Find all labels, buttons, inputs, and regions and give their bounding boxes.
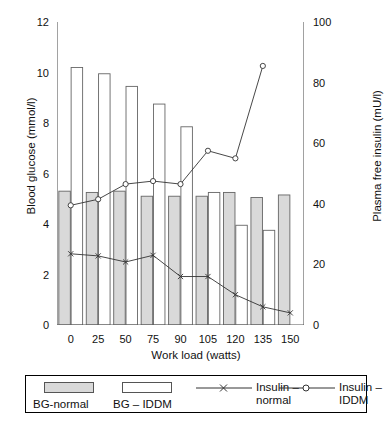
plot-svg (57, 22, 304, 325)
bar-bg-iddm (208, 192, 220, 325)
x-axis-tick-8: 150 (275, 334, 305, 345)
bar-bg-iddm (181, 127, 193, 325)
x-axis-tick-2: 50 (111, 334, 141, 345)
x-axis-tick-7: 135 (248, 334, 278, 345)
y-axis-left-tick-5: 10 (23, 68, 49, 79)
y-axis-right-tick-5: 100 (313, 17, 343, 28)
y-axis-left-tick-2: 4 (23, 219, 49, 230)
y-axis-left-tick-3: 6 (23, 169, 49, 180)
shaded-box-icon (44, 382, 94, 393)
bar-bg-normal (86, 192, 98, 325)
bar-bg-iddm (153, 104, 165, 325)
legend-label-bg-iddm: BG – IDDM (113, 398, 172, 411)
x-axis-tick-3: 75 (138, 334, 168, 345)
legend-label-insulin-iddm-line1: Insulin – (339, 381, 382, 394)
bar-bg-iddm (126, 86, 138, 325)
x-axis-tick-1: 25 (83, 334, 113, 345)
y-axis-right-tick-3: 60 (313, 138, 343, 149)
bar-bg-normal (223, 192, 235, 325)
x-axis-tick-6: 120 (220, 334, 250, 345)
bar-bg-normal (278, 195, 290, 325)
white-box-icon (122, 382, 172, 393)
bar-bg-normal (169, 196, 181, 325)
y-axis-right-tick-4: 80 (313, 78, 343, 89)
bar-bg-normal (114, 191, 126, 325)
bar-bg-iddm (263, 230, 275, 325)
bar-bg-normal (196, 196, 208, 325)
line-x-marker-icon (196, 383, 252, 393)
y-axis-left-tick-0: 0 (23, 320, 49, 331)
y-axis-left-tick-4: 8 (23, 118, 49, 129)
legend-label-insulin-normal-line2: normal (256, 394, 291, 407)
bar-bg-normal (141, 196, 153, 325)
line-insulin-iddm (68, 63, 265, 208)
chart-legend: BG-normal BG – IDDM Insulin – normal Ins… (25, 375, 367, 413)
line-circle-marker-icon (279, 383, 335, 393)
bar-bg-normal (59, 191, 70, 325)
y-axis-left-tick-1: 2 (23, 270, 49, 281)
x-axis-title: Work load (watts) (0, 349, 392, 361)
bar-bg-iddm (236, 225, 248, 325)
x-axis-tick-4: 90 (166, 334, 196, 345)
y-axis-right-tick-0: 0 (313, 320, 343, 331)
y-axis-left-tick-6: 12 (23, 17, 49, 28)
x-axis-tick-5: 105 (193, 334, 223, 345)
x-axis-tick-0: 0 (56, 334, 86, 345)
bar-bg-iddm (71, 67, 83, 325)
y-axis-right-title: Plasma free insulin (mU/l) (371, 41, 383, 271)
legend-label-insulin-iddm-line2: IDDM (339, 394, 368, 407)
chart-figure: Blood glucose (mmol/l) Plasma free insul… (0, 0, 392, 424)
plot-area (57, 22, 304, 325)
legend-label-bg-normal: BG-normal (33, 398, 89, 411)
y-axis-right-tick-1: 20 (313, 259, 343, 270)
y-axis-right-tick-2: 40 (313, 199, 343, 210)
